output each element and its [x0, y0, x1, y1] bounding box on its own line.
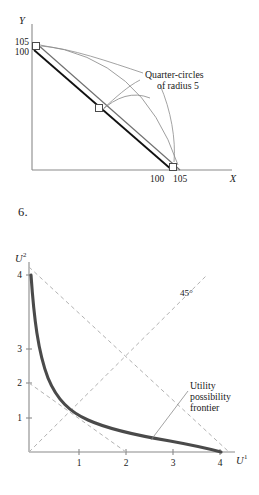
x-axis-label: U 1 — [236, 453, 247, 466]
x-tick-label-100: 100 — [150, 174, 165, 184]
item-number: 6. — [18, 206, 28, 219]
quarter-circle-arc-middle — [100, 95, 150, 112]
budget-band — [34, 44, 180, 170]
inner-equal-sum-line — [29, 383, 126, 452]
figure-one-canvas: Y X 105 100 100 105 — [0, 0, 259, 200]
forty-five-degree-label: 45° — [180, 288, 193, 298]
figure-one-axes — [32, 24, 232, 170]
y-axis-label: Y — [19, 15, 26, 26]
frontier-label-line-2: possibility — [190, 391, 231, 402]
frontier-label-line-1: Utility — [190, 380, 216, 391]
marker-square-bottom — [170, 164, 177, 171]
dashed-construction-lines — [29, 267, 229, 452]
y-axis-label-superscript: 2 — [23, 251, 27, 258]
marker-square-top — [33, 43, 40, 50]
y-tick-label-1: 1 — [17, 413, 22, 423]
annotation-line-1: Quarter-circles — [145, 69, 204, 80]
quarter-circles-annotation: Quarter-circles of radius 5 — [145, 69, 204, 91]
x-tick-label-4: 4 — [218, 458, 223, 468]
annotation-leaders — [41, 46, 174, 162]
y-tick-label-4: 4 — [17, 270, 22, 280]
x-axis-label: X — [229, 173, 237, 184]
outer-equal-sum-line — [29, 267, 229, 452]
y-tick-label-3: 3 — [17, 344, 22, 354]
x-tick-label-1: 1 — [77, 458, 82, 468]
x-tick-label-3: 3 — [171, 458, 176, 468]
y-tick-label-100: 100 — [15, 47, 30, 57]
x-tick-label-105: 105 — [173, 174, 188, 184]
quarter-circle-arc-major — [40, 45, 178, 165]
y-tick-label-2: 2 — [17, 378, 22, 388]
marker-square-middle — [96, 105, 103, 112]
y-tick-label-105: 105 — [15, 37, 30, 47]
y-ticks: 1 2 3 4 — [17, 270, 32, 423]
annotation-line-2: of radius 5 — [157, 80, 199, 91]
y-axis-label: U 2 — [15, 251, 27, 264]
quarter-circle-arcs — [40, 45, 178, 165]
outer-frontier-line — [37, 44, 180, 170]
utility-possibility-frontier-figure: U 2 U 1 1 2 3 4 1 2 3 4 — [0, 240, 259, 490]
figure-two-canvas: U 2 U 1 1 2 3 4 1 2 3 4 — [0, 240, 259, 490]
frontier-label-line-3: frontier — [190, 402, 220, 413]
frontier-annotation: Utility possibility frontier — [151, 380, 231, 440]
x-axis-label-superscript: 1 — [244, 453, 247, 460]
x-tick-label-2: 2 — [124, 458, 129, 468]
frontier-markers — [33, 43, 177, 171]
utility-possibility-frontier-curve — [31, 275, 221, 452]
quarter-circles-figure: Y X 105 100 100 105 — [0, 0, 259, 200]
frontier-annotation-leader — [151, 391, 188, 440]
forty-five-degree-line — [29, 276, 206, 452]
figure-two-axes — [29, 262, 235, 452]
